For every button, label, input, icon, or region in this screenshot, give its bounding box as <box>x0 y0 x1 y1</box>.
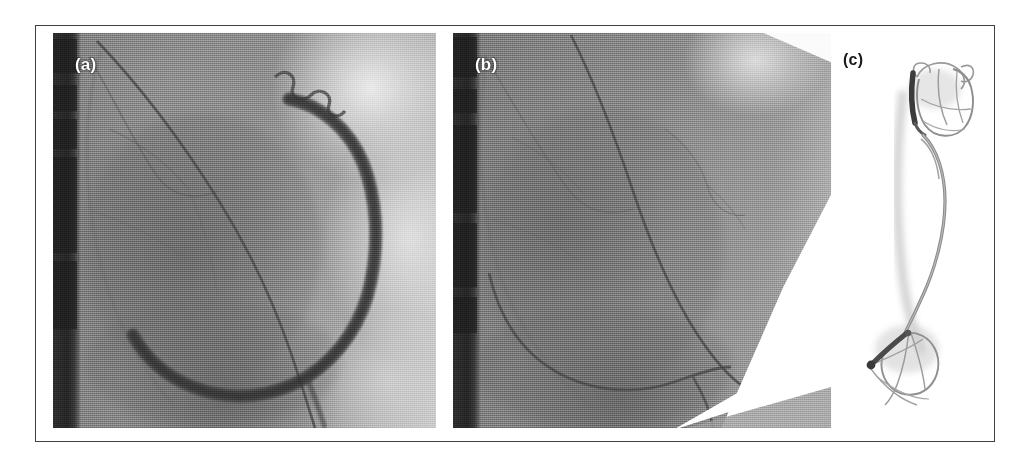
panel-a-angiogram: (a) <box>53 33 436 428</box>
panel-a-film-grain <box>53 33 436 428</box>
panel-b-label: (b) <box>475 55 497 75</box>
device-illustration <box>831 33 994 428</box>
upper-marker-tail <box>915 123 925 135</box>
figure-frame: (a) <box>35 25 995 442</box>
panel-a-label: (a) <box>75 55 96 75</box>
panel-b-film-grain <box>453 33 831 428</box>
lower-marker-tip <box>867 361 876 370</box>
lower-basket-strut-4 <box>871 369 917 405</box>
lower-basket-hub <box>905 330 911 336</box>
panel-c-label: (c) <box>843 51 863 69</box>
panel-b-angiogram: (b) <box>453 33 831 428</box>
panel-c-device-photo: (c) <box>831 33 994 428</box>
